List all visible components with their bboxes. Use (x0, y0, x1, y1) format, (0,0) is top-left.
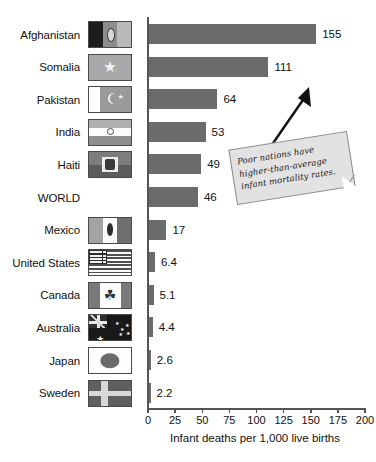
bar-value-label: 6.4 (161, 252, 177, 272)
category-label: Haiti (0, 148, 80, 181)
chart-row: Sweden2.2 (0, 377, 376, 410)
category-label: Sweden (0, 377, 80, 410)
x-tick (229, 408, 231, 413)
x-tick (147, 408, 149, 413)
chart-row: Afghanistan155 (0, 18, 376, 51)
bar-value-label: 5.1 (160, 285, 176, 305)
x-tick (364, 408, 366, 413)
bar (148, 154, 201, 174)
bar-value-label: 155 (322, 24, 341, 44)
x-tick (174, 408, 176, 413)
category-label: Canada (0, 279, 80, 312)
category-label: Afghanistan (0, 18, 80, 51)
bar (148, 317, 153, 337)
x-tick (337, 408, 339, 413)
flag-icon-sweden (88, 380, 132, 407)
flag-icon-haiti (88, 151, 132, 178)
bar (148, 24, 316, 44)
x-tick (310, 408, 312, 413)
bar-value-label: 4.4 (159, 317, 175, 337)
callout-fold-corner (342, 174, 357, 189)
bar (148, 89, 217, 109)
flag-icon-pakistan: ★ (88, 86, 132, 113)
bar-value-label: 111 (274, 57, 291, 77)
flag-icon-japan (88, 347, 132, 374)
bar-value-label: 2.6 (157, 350, 173, 370)
bar (148, 187, 198, 207)
category-label: India (0, 116, 80, 149)
bar-value-label: 49 (207, 154, 220, 174)
x-tick-label: 200 (345, 414, 376, 426)
flag-icon-mexico (88, 217, 132, 244)
x-tick (202, 408, 204, 413)
category-label: Japan (0, 344, 80, 377)
flag-icon-india (88, 119, 132, 146)
category-label: Somalia (0, 51, 80, 84)
bar (148, 252, 155, 272)
bar (148, 122, 206, 142)
chart-row: Japan2.6 (0, 344, 376, 377)
chart-row: Australia★★★★★★4.4 (0, 311, 376, 344)
category-label: Mexico (0, 214, 80, 247)
chart-row: Mexico17 (0, 214, 376, 247)
chart-row: United States6.4 (0, 246, 376, 279)
flag-icon-afghanistan (88, 21, 132, 48)
x-axis-title: Infant deaths per 1,000 live births (120, 432, 376, 444)
bar (148, 220, 166, 240)
bar-value-label: 17 (172, 220, 185, 240)
category-label: United States (0, 246, 80, 279)
bar-value-label: 64 (223, 89, 236, 109)
bar (148, 57, 268, 77)
flag-icon-united-states (88, 249, 132, 276)
category-label: Pakistan (0, 83, 80, 116)
infant-mortality-bar-chart: Afghanistan155Somalia★111Pakistan★64Indi… (0, 0, 376, 462)
bar-value-label: 46 (204, 187, 217, 207)
flag-icon-australia: ★★★★★★ (88, 314, 132, 341)
chart-row: Somalia★111 (0, 51, 376, 84)
category-label: WORLD (0, 181, 80, 214)
flag-icon-canada: ☘ (88, 282, 132, 309)
y-axis-line (147, 17, 149, 409)
x-tick (283, 408, 285, 413)
bar-value-label: 53 (212, 122, 225, 142)
flag-icon-somalia: ★ (88, 54, 132, 81)
bar (148, 285, 154, 305)
x-tick (256, 408, 258, 413)
bar-value-label: 2.2 (157, 383, 173, 403)
chart-row: Canada☘5.1 (0, 279, 376, 312)
category-label: Australia (0, 311, 80, 344)
